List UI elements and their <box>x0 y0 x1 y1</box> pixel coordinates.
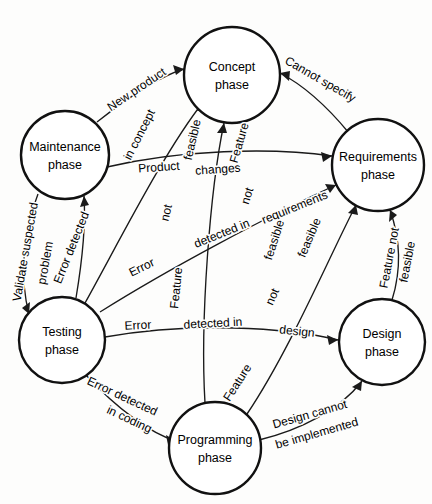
edge-line <box>97 69 184 122</box>
arrowhead-icon <box>80 196 89 207</box>
frag-detected-in-b: detected indetected in <box>183 315 242 332</box>
edge-label-text: detected in <box>183 315 242 332</box>
node-circle <box>169 402 261 494</box>
arrowhead-icon <box>173 65 184 75</box>
node-label-line2: phase <box>215 78 249 92</box>
node-label-line1: Testing <box>42 325 82 339</box>
frag-feature-b: FeatureFeature <box>167 266 185 309</box>
edge-label-text: design <box>279 322 316 340</box>
edge-label-text: feasible <box>181 118 204 162</box>
arrowhead-icon <box>327 335 338 345</box>
node-circle <box>21 111 109 199</box>
node-label-line1: Design <box>363 327 402 341</box>
edge-label-text: feasible <box>295 216 324 260</box>
arrowhead-icon <box>352 381 362 391</box>
diagram-svg: Concept phase Maintenance phase Requirem… <box>0 0 432 504</box>
edge-label-text: not <box>262 286 282 308</box>
node-label-line1: Concept <box>209 60 256 74</box>
node-requirements[interactable]: Requirements phase <box>332 119 424 211</box>
arrowhead-icon <box>325 184 336 193</box>
frag-feasible-d: feasiblefeasible <box>396 240 418 284</box>
frag-feature-c: FeatureFeature <box>220 361 254 404</box>
frag-feature: FeatureFeature <box>227 121 252 165</box>
edge-label-text: Cannot specify <box>283 53 359 105</box>
arrowhead-icon <box>217 123 227 133</box>
node-testing[interactable]: Testing phase <box>19 297 105 383</box>
frag-not-b: notnot <box>238 185 256 206</box>
node-label-line1: Requirements <box>339 150 417 164</box>
frag-feasible-a: feasiblefeasible <box>181 118 204 162</box>
node-layer: Concept phase Maintenance phase Requirem… <box>19 27 425 494</box>
arrowhead-icon <box>321 152 332 162</box>
edge-label-text: Feature <box>167 266 185 309</box>
node-label-line2: phase <box>361 168 395 182</box>
edge-label-text: Feature <box>227 121 252 165</box>
frag-feasible-c: feasiblefeasible <box>295 216 324 260</box>
node-label-line2: phase <box>45 343 79 357</box>
edge-label-text: Feature <box>220 361 254 404</box>
edge-label-text: Validate suspected <box>10 201 41 302</box>
edge-label-text: Error <box>124 317 151 332</box>
node-design[interactable]: Design phase <box>339 299 425 385</box>
node-circle <box>339 299 425 385</box>
node-label-line2: phase <box>198 451 232 465</box>
node-label-line2: phase <box>365 345 399 359</box>
frag-not-c: notnot <box>262 286 282 308</box>
edge-label-text: Error detected <box>50 210 91 286</box>
frag-design: designdesign <box>279 322 316 340</box>
edge-label-text: not <box>238 185 256 206</box>
frag-product: ProductProduct <box>138 159 181 176</box>
frag-error-b: ErrorError <box>124 317 151 332</box>
edge-label-text: detected in <box>192 216 252 251</box>
frag-not-a: notnot <box>157 202 175 222</box>
edge-label-text: New product <box>105 64 169 114</box>
frag-new-product: New productNew product <box>105 64 169 114</box>
node-label-line2: phase <box>48 158 82 172</box>
node-label-line1: Maintenance <box>29 140 101 154</box>
frag-cannot-specify: Cannot specifyCannot specify <box>283 53 359 105</box>
node-programming[interactable]: Programming phase <box>169 402 261 494</box>
node-maintenance[interactable]: Maintenance phase <box>21 111 109 199</box>
edge-label-text: feasible <box>396 240 418 284</box>
frag-validate: Validate suspectedValidate suspected <box>10 201 41 302</box>
edge-label-text: in concept <box>121 106 159 162</box>
node-circle <box>332 119 424 211</box>
edge-label-text: Product <box>138 159 181 176</box>
arrowhead-icon <box>280 71 290 81</box>
diagram-canvas: Concept phase Maintenance phase Requirem… <box>0 0 432 504</box>
frag-in-concept: in conceptin concept <box>121 106 159 162</box>
node-circle <box>19 297 105 383</box>
edge-label-text: not <box>157 202 175 222</box>
node-label-line1: Programming <box>177 433 252 447</box>
node-circle <box>184 27 280 123</box>
frag-error-detected-v: Error detectedError detected <box>50 210 91 286</box>
edge-label-text: Error <box>127 255 157 279</box>
node-concept[interactable]: Concept phase <box>184 27 280 123</box>
frag-detected-in-a: detected indetected in <box>192 216 252 251</box>
frag-error-a: ErrorError <box>127 255 157 279</box>
